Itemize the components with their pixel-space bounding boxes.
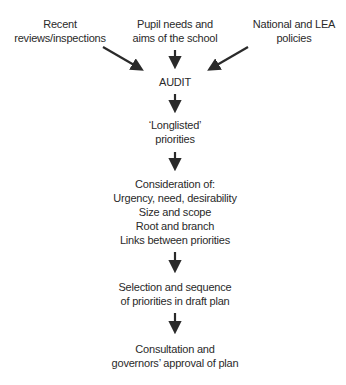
arrow-reviews-to-audit — [103, 47, 141, 69]
node-consideration-line-4: Root and branch — [113, 219, 236, 233]
node-selection-line-2: of priorities in draft plan — [118, 294, 231, 308]
node-consultation-line-2: governors’ approval of plan — [112, 356, 239, 370]
node-longlisted: ‘Longlisted’ priorities — [149, 118, 202, 146]
node-consideration-line-1: Consideration of: — [113, 177, 236, 191]
node-consideration-line-2: Urgency, need, desirability — [113, 191, 236, 205]
node-longlisted-line-2: priorities — [149, 132, 202, 146]
node-pupil-line-2: aims of the school — [132, 31, 217, 45]
node-consultation: Consultation and governors’ approval of … — [112, 342, 239, 370]
arrow-national-to-audit — [210, 47, 248, 69]
node-pupil: Pupil needs and aims of the school — [132, 17, 217, 45]
node-national: National and LEA policies — [253, 17, 335, 45]
node-longlisted-line-1: ‘Longlisted’ — [149, 118, 202, 132]
node-national-line-2: policies — [253, 31, 335, 45]
node-reviews-line-2: reviews/inspections — [14, 31, 106, 45]
node-selection: Selection and sequence of priorities in … — [118, 280, 231, 308]
node-selection-line-1: Selection and sequence — [118, 280, 231, 294]
node-consideration: Consideration of: Urgency, need, desirab… — [113, 177, 236, 247]
node-audit: AUDIT — [159, 75, 191, 89]
node-reviews: Recent reviews/inspections — [14, 17, 106, 45]
node-pupil-line-1: Pupil needs and — [132, 17, 217, 31]
node-consideration-line-5: Links between priorities — [113, 233, 236, 247]
node-reviews-line-1: Recent — [14, 17, 106, 31]
node-consideration-line-3: Size and scope — [113, 205, 236, 219]
node-audit-line-1: AUDIT — [159, 75, 191, 89]
node-national-line-1: National and LEA — [253, 17, 335, 31]
node-consultation-line-1: Consultation and — [112, 342, 239, 356]
